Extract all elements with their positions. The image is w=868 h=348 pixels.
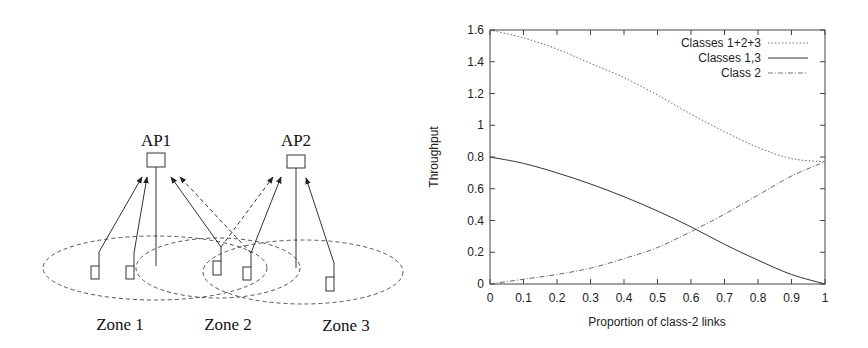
zone-ellipse bbox=[43, 236, 267, 300]
x-tick-label: 0.2 bbox=[549, 291, 566, 305]
x-tick-label: 0 bbox=[487, 291, 494, 305]
legend-label: Classes 1,3 bbox=[698, 51, 761, 65]
network-diagram: AP1 AP2 bbox=[43, 131, 403, 335]
interference-arrows bbox=[180, 177, 273, 253]
series-line-3 bbox=[490, 162, 825, 284]
x-tick-label: 0.3 bbox=[582, 291, 599, 305]
station-icon bbox=[126, 266, 134, 279]
x-tick-label: 0.5 bbox=[649, 291, 666, 305]
series-line-2 bbox=[490, 157, 825, 284]
stations bbox=[91, 247, 334, 291]
station-icon bbox=[91, 266, 99, 279]
zone3-label: Zone 3 bbox=[322, 316, 370, 335]
ap2-label: AP2 bbox=[281, 131, 311, 150]
ap1-box-icon bbox=[147, 153, 165, 167]
station-icon bbox=[213, 261, 221, 275]
zone-ellipse bbox=[203, 240, 403, 304]
x-tick-label: 0.1 bbox=[515, 291, 532, 305]
x-tick-label: 0.9 bbox=[783, 291, 800, 305]
y-tick-label: 0.2 bbox=[467, 245, 484, 259]
throughput-chart: 00.20.40.60.811.21.41.6 00.10.20.30.40.5… bbox=[427, 23, 829, 329]
chart-series bbox=[490, 30, 825, 284]
y-tick-label: 0.6 bbox=[467, 182, 484, 196]
zone2-label: Zone 2 bbox=[204, 315, 252, 334]
ap2-box-icon bbox=[287, 155, 305, 168]
y-tick-label: 0 bbox=[477, 277, 484, 291]
series-line-1 bbox=[490, 30, 825, 162]
x-tick-label: 0.7 bbox=[716, 291, 733, 305]
legend-label: Class 2 bbox=[721, 66, 761, 80]
y-tick-label: 1 bbox=[477, 118, 484, 132]
y-axis-label: Throughput bbox=[427, 126, 441, 188]
x-tick-label: 0.6 bbox=[683, 291, 700, 305]
ap1-label: AP1 bbox=[141, 131, 171, 150]
y-tick-label: 1.4 bbox=[467, 55, 484, 69]
chart-legend: Classes 1+2+3Classes 1,3Class 2 bbox=[681, 36, 808, 80]
station-icon bbox=[243, 267, 251, 280]
x-tick-label: 0.8 bbox=[750, 291, 767, 305]
y-tick-label: 1.6 bbox=[467, 23, 484, 37]
y-axis-ticks: 00.20.40.60.811.21.41.6 bbox=[467, 23, 825, 291]
y-tick-label: 0.8 bbox=[467, 150, 484, 164]
figure-canvas: AP1 AP2 bbox=[0, 0, 868, 348]
y-tick-label: 0.4 bbox=[467, 214, 484, 228]
x-tick-label: 1 bbox=[822, 291, 829, 305]
y-tick-label: 1.2 bbox=[467, 87, 484, 101]
x-axis-label: Proportion of class-2 links bbox=[588, 315, 725, 329]
zone1-label: Zone 1 bbox=[96, 315, 144, 334]
legend-label: Classes 1+2+3 bbox=[681, 36, 761, 50]
uplink-arrows bbox=[99, 177, 334, 263]
station-icon bbox=[326, 277, 334, 291]
plot-frame bbox=[490, 30, 825, 284]
x-tick-label: 0.4 bbox=[616, 291, 633, 305]
